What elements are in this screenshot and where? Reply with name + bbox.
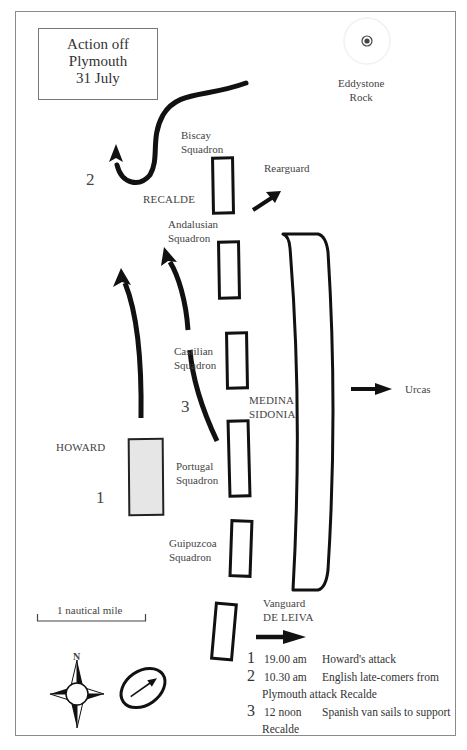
biscay-squadron-label: BiscaySquadron	[181, 128, 223, 156]
castilian-squadron-label: CastilianSquadron	[174, 344, 216, 372]
howard-arrow-left	[125, 283, 141, 418]
guipuzcoa-squadron-label: GuipuzcoaSquadron	[169, 536, 217, 564]
guipuzcoa-squadron-block	[230, 521, 252, 577]
wind-direction-icon	[114, 660, 173, 715]
battle-map	[0, 0, 467, 750]
recalde-label: RECALDE	[143, 192, 195, 206]
marker-1: 1	[96, 488, 105, 508]
castilian-squadron-block	[227, 333, 248, 388]
vanguard-label: VanguardDE LEIVA	[263, 596, 314, 624]
vanguard-block	[212, 603, 237, 660]
medina-sidonia-label: MEDINASIDONIA	[249, 393, 296, 421]
legend: 119.00 amHoward's attack 210.30 amEnglis…	[247, 651, 457, 739]
compass-rose-icon	[50, 660, 104, 728]
title-line: 31 July	[39, 70, 157, 87]
rearguard-label: Rearguard	[264, 161, 310, 175]
andalusian-squadron-label: AndalusianSquadron	[168, 217, 218, 245]
urcas-label: Urcas	[405, 382, 431, 396]
north-label: N	[73, 650, 80, 664]
howard-label: HOWARD	[56, 440, 105, 454]
arrowhead	[109, 144, 123, 162]
scale-label: 1 nautical mile	[57, 603, 122, 617]
legend-item: 119.00 amHoward's attack	[247, 651, 457, 669]
andalusian-squadron-block	[219, 242, 240, 298]
eddystone-label: EddystoneRock	[338, 76, 384, 104]
eddystone-rock-icon	[344, 18, 390, 64]
urcas-arrow	[375, 383, 392, 395]
portugal-squadron-label: PortugalSquadron	[176, 459, 218, 487]
legend-item: 312 noonSpanish van sails to support Rec…	[247, 704, 457, 739]
portugal-squadron-block	[228, 421, 250, 496]
legend-item: 210.30 amEnglish late-comers from Plymou…	[247, 669, 457, 704]
marker-2: 2	[86, 170, 95, 190]
map-title: Action off Plymouth 31 July	[38, 28, 158, 100]
biscay-squadron-block	[213, 158, 234, 213]
title-line: Action off	[39, 36, 157, 53]
vanguard-arrow	[283, 630, 306, 644]
title-line: Plymouth	[39, 53, 157, 70]
howard-fleet-block	[129, 439, 164, 515]
marker-3: 3	[181, 397, 190, 417]
